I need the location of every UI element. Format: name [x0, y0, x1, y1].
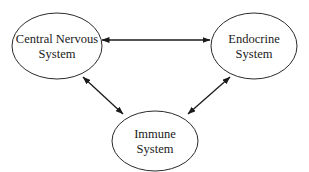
node-endocrine-label-line-2: System: [236, 47, 273, 61]
node-immune-ellipse: [112, 111, 198, 171]
node-cns-label-line-1: Central Nervous: [16, 32, 98, 46]
edge-cns-immune: [83, 77, 123, 114]
node-endocrine-system: Endocrine System: [211, 13, 297, 79]
node-cns-ellipse: [12, 13, 102, 79]
node-immune-label-line-2: System: [137, 142, 174, 156]
node-immune-system: Immune System: [112, 111, 198, 171]
node-endocrine-ellipse: [211, 13, 297, 79]
node-cns-label-line-2: System: [39, 47, 76, 61]
diagram-canvas: Central Nervous System Endocrine System …: [0, 0, 309, 172]
node-immune-label-line-1: Immune: [134, 127, 176, 141]
node-endocrine-label-line-1: Endocrine: [228, 32, 280, 46]
node-central-nervous-system: Central Nervous System: [12, 13, 102, 79]
edge-endocrine-immune: [188, 77, 230, 114]
